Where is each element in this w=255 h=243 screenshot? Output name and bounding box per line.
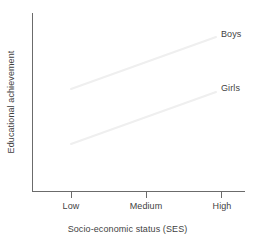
- chart-container: Educational achievement Low Medium High …: [0, 0, 255, 243]
- y-axis-title: Educational achievement: [6, 51, 16, 154]
- x-tick-label-medium: Medium: [118, 201, 174, 211]
- x-axis-title: Socio-economic status (SES): [0, 224, 255, 234]
- x-tick-label-low: Low: [51, 201, 91, 211]
- series-line-boys: [71, 37, 216, 89]
- x-tick-label-high: High: [202, 201, 242, 211]
- series-line-girls: [71, 92, 216, 144]
- series-label-girls: Girls: [221, 83, 240, 93]
- series-label-boys: Boys: [221, 29, 241, 39]
